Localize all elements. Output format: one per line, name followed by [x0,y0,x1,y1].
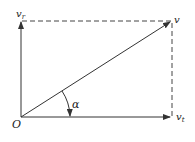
tangential-velocity-label: vt [176,111,185,124]
resultant-velocity-label: v [174,14,180,25]
velocity-diagram: vr v vt O α [0,0,195,142]
angle-arc [62,91,70,116]
resultant-velocity-arrow [21,22,170,117]
angle-label: α [72,98,80,111]
radial-velocity-label: vr [16,8,26,21]
origin-label: O [12,118,21,131]
